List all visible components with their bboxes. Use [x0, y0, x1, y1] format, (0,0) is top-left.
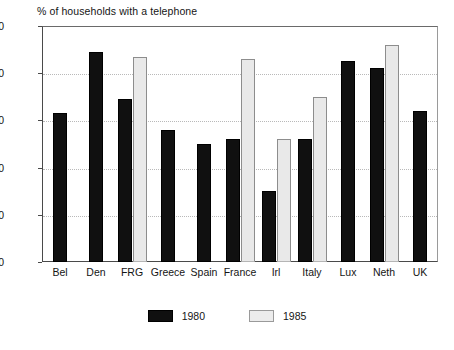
legend-entry-1980: 1980	[148, 310, 205, 322]
x-tick-label-spain: Spain	[191, 266, 218, 278]
x-tick-label-france: France	[224, 266, 257, 278]
y-tick-label-0: 0	[0, 256, 4, 268]
bar-1980-italy	[298, 139, 312, 262]
bar-1985-neth	[385, 45, 399, 262]
legend-label-1980: 1980	[182, 310, 205, 322]
bar-1985-italy	[313, 97, 327, 262]
bar-1985-france	[241, 59, 255, 262]
y-axis: 020406080100	[0, 0, 42, 350]
bars-layer	[42, 26, 438, 262]
x-tick-label-uk: UK	[413, 266, 428, 278]
chart-title: % of households with a telephone	[37, 5, 197, 17]
y-tick-label-60: 60	[0, 114, 4, 126]
x-tick-label-italy: Italy	[302, 266, 321, 278]
legend-label-1985: 1985	[283, 310, 306, 322]
y-tick-label-40: 40	[0, 162, 4, 174]
bar-1985-irl	[277, 139, 291, 262]
x-tick-label-den: Den	[86, 266, 105, 278]
bar-1980-frg	[118, 99, 132, 262]
x-tick-label-lux: Lux	[340, 266, 357, 278]
x-tick-label-neth: Neth	[373, 266, 395, 278]
bar-1980-uk	[413, 111, 427, 262]
x-tick-label-bel: Bel	[52, 266, 67, 278]
bar-1980-lux	[341, 61, 355, 262]
y-tick-label-80: 80	[0, 67, 4, 79]
gray-swatch-icon	[249, 310, 274, 322]
y-tick-label-20: 20	[0, 209, 4, 221]
x-tick-label-frg: FRG	[121, 266, 143, 278]
bar-1980-france	[226, 139, 240, 262]
bar-1980-spain	[197, 144, 211, 262]
y-tick-mark-0	[38, 262, 42, 263]
bar-1980-den	[89, 52, 103, 262]
x-tick-label-greece: Greece	[151, 266, 185, 278]
black-swatch-icon	[148, 310, 173, 322]
x-axis: BelDenFRGGreeceSpainFranceIrlItalyLuxNet…	[42, 266, 438, 286]
legend-entry-1985: 1985	[249, 310, 306, 322]
chart-figure: % of households with a telephone 0204060…	[0, 0, 454, 350]
bar-1985-frg	[133, 57, 147, 262]
bar-1980-neth	[370, 68, 384, 262]
chart-legend: 19801985	[0, 310, 454, 322]
y-tick-label-100: 100	[0, 20, 4, 32]
bar-1980-irl	[262, 191, 276, 262]
x-tick-label-irl: Irl	[272, 266, 281, 278]
bar-1980-greece	[161, 130, 175, 262]
bar-1980-bel	[53, 113, 67, 262]
